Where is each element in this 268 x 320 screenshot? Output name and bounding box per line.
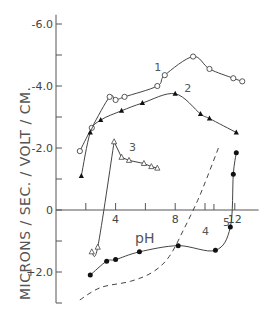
series-label-2: 2 (184, 82, 191, 95)
open-circle-marker (231, 76, 236, 81)
chart-canvas: -6.0-4.0-2.00+2.04812 12345 MICRONS / SE… (0, 0, 268, 320)
y-axis-title: MICRONS / SEC. / VOLT / CM. (17, 87, 33, 300)
open-circle-marker (113, 97, 118, 102)
open-triangle-marker (119, 154, 124, 159)
y-tick-label: -4.0 (32, 80, 53, 93)
filled-circle-marker (137, 249, 142, 254)
y-tick-label: 0 (46, 204, 53, 217)
x-tick-label: 8 (172, 213, 179, 226)
series-4 (80, 148, 219, 300)
x-tick-label: 4 (112, 213, 119, 226)
filled-circle-marker (234, 150, 239, 155)
series-label-4: 4 (202, 225, 209, 238)
series-layer (77, 54, 245, 300)
series-line (81, 93, 236, 175)
open-circle-marker (122, 94, 127, 99)
series-labels: 12345 (129, 61, 230, 238)
open-circle-marker (77, 149, 82, 154)
open-circle-marker (190, 54, 195, 59)
y-tick-label: -6.0 (32, 18, 53, 31)
y-tick-label: -2.0 (32, 142, 53, 155)
open-circle-marker (155, 83, 160, 88)
filled-circle-marker (113, 257, 118, 262)
open-triangle-marker (112, 139, 117, 144)
open-circle-marker (162, 73, 167, 78)
axes (56, 15, 259, 303)
filled-triangle-marker (79, 173, 84, 178)
series-label-3: 3 (129, 141, 136, 154)
filled-triangle-marker (198, 111, 203, 116)
series-label-5: 5 (223, 216, 230, 229)
x-axis-title: pH (135, 230, 154, 246)
series-2 (79, 91, 239, 178)
open-triangle-marker (89, 249, 94, 254)
x-tick-label: 12 (228, 213, 242, 226)
filled-circle-marker (88, 273, 93, 278)
open-circle-marker (107, 94, 112, 99)
filled-circle-marker (104, 259, 109, 264)
series-line (80, 148, 219, 300)
series-label-1: 1 (154, 61, 161, 74)
open-circle-marker (240, 79, 245, 84)
filled-circle-marker (231, 172, 236, 177)
open-circle-marker (207, 66, 212, 71)
filled-circle-marker (213, 248, 218, 253)
filled-triangle-marker (98, 117, 103, 122)
open-triangle-marker (95, 244, 100, 249)
filled-circle-marker (176, 243, 181, 248)
